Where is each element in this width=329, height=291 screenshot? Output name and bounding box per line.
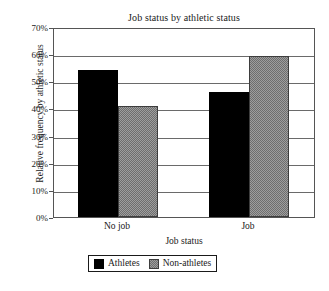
- legend-label: Athletes: [108, 258, 140, 269]
- bar-athletes-job: [209, 92, 249, 217]
- y-axis-tick-label: 30%: [8, 132, 48, 142]
- y-axis-tick-label: 50%: [8, 77, 48, 87]
- legend-swatch-icon: [149, 259, 159, 269]
- x-axis-title: Job status: [53, 236, 315, 247]
- bar-non-athletes-no-job: [118, 106, 158, 217]
- chart-title: Job status by athletic status: [53, 12, 315, 24]
- bar-athletes-no-job: [78, 70, 118, 217]
- y-axis-tick-label: 40%: [8, 104, 48, 114]
- bar-non-athletes-job: [249, 56, 289, 218]
- x-axis-tick-label: No job: [77, 221, 157, 232]
- x-axis-tick-label: Job: [208, 221, 288, 232]
- legend-item-athletes[interactable]: Athletes: [94, 258, 140, 269]
- legend-swatch-icon: [94, 259, 104, 269]
- y-axis-tick-label: 70%: [8, 23, 48, 33]
- plot-area: [53, 28, 315, 218]
- bar-chart: Job status by athletic status Relative f…: [0, 0, 329, 291]
- legend-item-non-athletes[interactable]: Non-athletes: [149, 258, 212, 269]
- y-axis-tick-label: 20%: [8, 159, 48, 169]
- y-axis-tick-label: 0%: [8, 213, 48, 223]
- chart-legend: AthletesNon-athletes: [88, 255, 217, 272]
- legend-label: Non-athletes: [163, 258, 212, 269]
- y-axis-tick-mark: [49, 218, 53, 219]
- y-axis-tick-label: 60%: [8, 50, 48, 60]
- y-axis-tick-label: 10%: [8, 186, 48, 196]
